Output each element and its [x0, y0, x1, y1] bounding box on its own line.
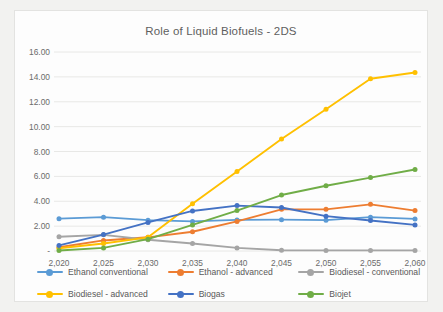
y-tick-label: 14.00 [29, 72, 50, 82]
y-tick-label: 4.00 [34, 196, 51, 206]
data-point [324, 183, 329, 188]
data-point [57, 216, 62, 221]
y-axis-tick-labels: 16.0014.0012.0010.008.006.004.002.00- [29, 47, 50, 256]
data-point [413, 222, 418, 227]
chart-card: Role of Liquid Biofuels - 2DS 16.0014.00… [14, 10, 428, 302]
data-point [190, 208, 195, 213]
data-point [413, 208, 418, 213]
legend-item-label: Ethanol conventional [68, 267, 148, 277]
y-tick-label: 2.00 [34, 221, 51, 231]
y-tick-label: - [47, 246, 50, 256]
data-point [146, 237, 151, 242]
legend-marker-icon [168, 289, 194, 299]
data-point [57, 243, 62, 248]
y-tick-label: 8.00 [34, 147, 51, 157]
legend-item[interactable]: Ethanol - advanced [158, 261, 289, 283]
data-point [324, 107, 329, 112]
legend-item-label: Biodiesel - conventional [329, 267, 420, 277]
y-tick-label: 6.00 [34, 171, 51, 181]
chart-legend: Ethanol conventionalEthanol - advancedBi… [27, 261, 419, 305]
legend-marker-icon [168, 267, 194, 277]
data-point [279, 137, 284, 142]
data-point [190, 229, 195, 234]
data-point [279, 205, 284, 210]
data-point [368, 202, 373, 207]
data-point [279, 217, 284, 222]
legend-marker-icon [37, 289, 63, 299]
data-point [101, 245, 106, 250]
data-point [235, 203, 240, 208]
legend-item[interactable]: Biogas [158, 283, 289, 305]
data-point [190, 222, 195, 227]
data-point [279, 248, 284, 253]
data-point [324, 214, 329, 219]
data-point [368, 218, 373, 223]
legend-marker-icon [298, 289, 324, 299]
legend-item-label: Ethanol - advanced [199, 267, 273, 277]
data-point [235, 245, 240, 250]
data-point [57, 248, 62, 253]
data-point [235, 169, 240, 174]
data-point [146, 220, 151, 225]
data-point [324, 207, 329, 212]
y-tick-label: 10.00 [29, 122, 50, 132]
data-point [413, 167, 418, 172]
data-point [413, 70, 418, 75]
data-point [101, 241, 106, 246]
data-point [190, 241, 195, 246]
y-tick-label: 16.00 [29, 47, 50, 57]
series-lines [57, 70, 418, 253]
legend-marker-icon [298, 267, 324, 277]
data-point [413, 248, 418, 253]
legend-item-label: Biodiesel - advanced [68, 289, 148, 299]
data-point [413, 216, 418, 221]
data-point [368, 175, 373, 180]
legend-item[interactable]: Ethanol conventional [27, 261, 158, 283]
data-point [368, 76, 373, 81]
line-chart-svg: 16.0014.0012.0010.008.006.004.002.00- 2,… [15, 11, 429, 303]
data-point [279, 193, 284, 198]
legend-marker-icon [37, 267, 63, 277]
data-point [368, 248, 373, 253]
chart-page: Role of Liquid Biofuels - 2DS 16.0014.00… [0, 0, 443, 312]
legend-item-label: Biojet [329, 289, 351, 299]
y-tick-label: 12.00 [29, 97, 50, 107]
data-point [190, 201, 195, 206]
data-point [235, 219, 240, 224]
data-point [101, 215, 106, 220]
data-point [101, 232, 106, 237]
legend-item-label: Biogas [199, 289, 225, 299]
legend-item[interactable]: Biodiesel - advanced [27, 283, 158, 305]
legend-item[interactable]: Biojet [288, 283, 419, 305]
data-point [324, 248, 329, 253]
data-point [235, 208, 240, 213]
data-point [57, 234, 62, 239]
legend-item[interactable]: Biodiesel - conventional [288, 261, 419, 283]
plot-area: 16.0014.0012.0010.008.006.004.002.00- 2,… [15, 11, 429, 303]
